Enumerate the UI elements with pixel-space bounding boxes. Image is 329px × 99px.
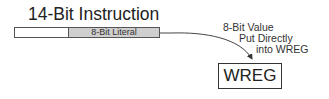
wreg-register-box: WREG [218,63,282,89]
annotation-line-3: into WREG [256,44,309,55]
